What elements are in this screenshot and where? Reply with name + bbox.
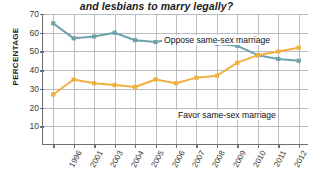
x-tick-label: 2012 <box>293 149 309 169</box>
x-tick-label: 2001 <box>88 149 104 169</box>
data-point-marker <box>153 40 157 44</box>
data-point-marker <box>297 59 301 63</box>
x-tick-label: 2010 <box>252 149 268 169</box>
chart-container: and lesbians to marry legally? PERCENTAG… <box>0 0 313 178</box>
y-tick-label: 70 <box>17 10 39 19</box>
chart-title: and lesbians to marry legally? <box>0 0 313 12</box>
data-point-marker <box>113 83 117 87</box>
y-tick-label: 40 <box>17 66 39 75</box>
y-tick-label: 30 <box>17 84 39 93</box>
data-point-marker <box>276 57 280 61</box>
data-point-marker <box>72 36 76 40</box>
data-point-marker <box>297 46 301 50</box>
x-tick-label: 2003 <box>109 149 125 169</box>
plot-area: 70605040302010 1996200120032004200520062… <box>42 14 308 145</box>
x-tick-label: 2004 <box>129 149 145 169</box>
series-label-favor: Favor same-sex marriage <box>176 110 278 120</box>
data-point-marker <box>215 74 219 78</box>
data-point-marker <box>133 85 137 89</box>
y-tick-label: 50 <box>17 47 39 56</box>
data-point-marker <box>92 81 96 85</box>
y-tick-label: 60 <box>17 28 39 37</box>
x-tick-label: 2009 <box>231 149 247 169</box>
data-point-marker <box>51 21 55 25</box>
data-point-marker <box>92 34 96 38</box>
data-point-marker <box>235 61 239 65</box>
data-point-marker <box>51 92 55 96</box>
x-tick-label: 1996 <box>68 149 84 169</box>
data-point-marker <box>153 77 157 81</box>
x-tick-label: 2006 <box>170 149 186 169</box>
y-tick-label: 20 <box>17 103 39 112</box>
series-label-oppose: Oppose same-sex marriage <box>162 35 272 45</box>
data-point-marker <box>256 53 260 57</box>
x-tick-label: 2008 <box>211 149 227 169</box>
x-tick-label: 2011 <box>272 149 288 168</box>
x-tick-label: 2005 <box>150 149 166 169</box>
data-point-marker <box>174 81 178 85</box>
data-point-marker <box>113 31 117 35</box>
x-tick-label: 2007 <box>190 149 206 169</box>
data-point-marker <box>194 76 198 80</box>
data-point-marker <box>72 77 76 81</box>
data-point-marker <box>133 38 137 42</box>
series-lines <box>43 14 309 145</box>
y-tick-label: 10 <box>17 122 39 131</box>
series-line <box>53 48 299 95</box>
data-point-marker <box>276 49 280 53</box>
